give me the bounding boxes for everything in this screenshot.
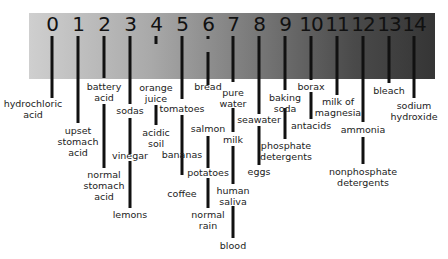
connector-line bbox=[103, 104, 106, 168]
label-lemons: lemons bbox=[113, 209, 148, 220]
ph-number-2: 2 bbox=[98, 13, 110, 35]
connector-line bbox=[181, 36, 184, 99]
connector-line bbox=[207, 136, 210, 168]
label-nonphosphate-detergents: nonphosphate detergents bbox=[329, 166, 397, 188]
label-potatoes: potatoes bbox=[187, 167, 229, 178]
connector-line bbox=[413, 36, 416, 98]
ph-number-4: 4 bbox=[150, 13, 162, 35]
label-pure-water: pure water bbox=[219, 87, 246, 109]
label-salmon: salmon bbox=[191, 123, 226, 134]
connector-line bbox=[103, 36, 106, 78]
ph-number-9: 9 bbox=[279, 13, 291, 35]
connector-line bbox=[207, 178, 210, 208]
label-milk: milk bbox=[223, 134, 243, 145]
ph-number-3: 3 bbox=[124, 13, 136, 35]
label-bananas: bananas bbox=[162, 149, 203, 160]
label-normal-rain: normal rain bbox=[191, 209, 224, 231]
ph-number-13: 13 bbox=[377, 13, 400, 35]
ph-number-6: 6 bbox=[202, 13, 214, 35]
ph-number-10: 10 bbox=[299, 13, 322, 35]
connector-line bbox=[207, 36, 210, 39]
label-upset-stomach-acid: upset stomach acid bbox=[58, 125, 99, 158]
label-sodas: sodas bbox=[116, 105, 144, 116]
connector-line bbox=[336, 36, 339, 95]
label-human-saliva: human saliva bbox=[216, 185, 249, 207]
label-sodium-hydroxide: sodium hydroxide bbox=[390, 100, 437, 122]
connector-line bbox=[258, 36, 261, 114]
connector-line bbox=[310, 92, 313, 119]
connector-line bbox=[129, 36, 132, 104]
connector-line bbox=[155, 36, 158, 44]
label-battery-acid: battery acid bbox=[87, 81, 122, 103]
label-tomatoes: tomatoes bbox=[160, 103, 205, 114]
label-borax: borax bbox=[297, 81, 324, 92]
connector-line bbox=[129, 161, 132, 208]
connector-line bbox=[77, 36, 80, 123]
label-ammonia: ammonia bbox=[341, 124, 386, 135]
label-normal-stomach-acid: normal stomach acid bbox=[84, 169, 125, 202]
label-bleach: bleach bbox=[373, 85, 405, 96]
ph-number-8: 8 bbox=[253, 13, 265, 35]
ph-number-12: 12 bbox=[351, 13, 374, 35]
label-hydrochloric-acid: hydrochloric acid bbox=[4, 98, 63, 120]
label-blood: blood bbox=[220, 240, 246, 251]
connector-line bbox=[181, 115, 184, 175]
connector-line bbox=[232, 36, 235, 82]
connector-line bbox=[232, 146, 235, 184]
label-vinegar: vinegar bbox=[112, 150, 148, 161]
ph-number-0: 0 bbox=[46, 13, 58, 35]
label-phosphate-detergents: phosphate detergents bbox=[260, 140, 312, 162]
label-baking-soda: baking soda bbox=[269, 92, 301, 114]
label-orange-juice: orange juice bbox=[139, 82, 172, 104]
connector-line bbox=[388, 36, 391, 83]
ph-number-11: 11 bbox=[325, 13, 348, 35]
connector-line bbox=[232, 108, 235, 132]
ph-number-14: 14 bbox=[402, 13, 425, 35]
label-milk-of-magnesia: milk of magnesia bbox=[315, 96, 361, 118]
label-bread: bread bbox=[194, 81, 221, 92]
label-eggs: eggs bbox=[248, 166, 271, 177]
connector-line bbox=[362, 36, 365, 122]
connector-line bbox=[310, 36, 313, 80]
connector-line bbox=[284, 36, 287, 90]
ph-number-5: 5 bbox=[176, 13, 188, 35]
connector-line bbox=[129, 118, 132, 154]
label-antacids: antacids bbox=[291, 120, 331, 131]
connector-line bbox=[232, 206, 235, 238]
label-seawater: seawater bbox=[237, 114, 281, 125]
ph-number-1: 1 bbox=[72, 13, 84, 35]
label-acidic-soil: acidic soil bbox=[142, 127, 170, 149]
label-coffee: coffee bbox=[167, 188, 196, 199]
ph-number-7: 7 bbox=[227, 13, 239, 35]
connector-line bbox=[155, 105, 158, 125]
connector-line bbox=[362, 137, 365, 164]
connector-line bbox=[51, 36, 54, 98]
